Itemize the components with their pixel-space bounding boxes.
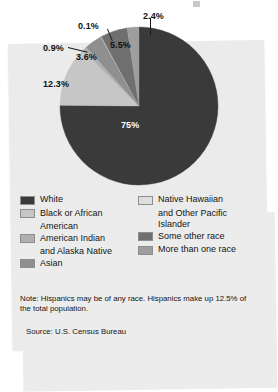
legend-swatch-icon: [138, 232, 153, 241]
slice-label-black: 12.3%: [43, 79, 69, 89]
scan-artifact: [193, 1, 200, 7]
legend-label-continued: and Alaska Native: [20, 246, 140, 258]
legend-swatch-icon: [20, 234, 35, 243]
legend-label-continued: and Other Pacific: [138, 208, 258, 220]
legend-item-left-1[interactable]: Black or African: [20, 208, 140, 220]
legend-item-right-0[interactable]: Native Hawaiian: [138, 194, 258, 206]
legend-swatch-icon: [20, 259, 35, 268]
legend-item-left-0[interactable]: White: [20, 194, 140, 206]
legend-label: Asian: [40, 258, 63, 270]
legend-swatch-icon: [20, 209, 35, 218]
slice-label-white: 75%: [121, 120, 139, 130]
legend-label: Black or African: [40, 208, 103, 220]
slice-label-some-other-race: 5.5%: [110, 40, 131, 50]
chart-source: Source: U.S. Census Bureau: [26, 327, 246, 337]
legend-label-continued: American: [20, 221, 140, 233]
legend-item-left-3[interactable]: Asian: [20, 258, 140, 270]
legend-item-right-1[interactable]: Some other race: [138, 231, 258, 243]
legend-column-right: Native Hawaiianand Other PacificIslander…: [138, 194, 258, 258]
legend-label: Some other race: [158, 231, 225, 243]
slice-label-asian: 3.6%: [76, 52, 97, 62]
legend-swatch-icon: [138, 246, 153, 255]
chart-note: Note: Hispanics may be of any race. Hisp…: [20, 294, 250, 314]
slice-label-native-hawaiian: 0.1%: [78, 21, 99, 31]
legend-swatch-icon: [138, 196, 153, 205]
legend-label: American Indian: [40, 233, 105, 245]
legend-item-left-2[interactable]: American Indian: [20, 233, 140, 245]
legend-column-left: WhiteBlack or AfricanAmericanAmerican In…: [20, 194, 140, 271]
legend-label-continued: Islander: [138, 219, 258, 231]
legend-label: Native Hawaiian: [158, 194, 223, 206]
legend-item-right-2[interactable]: More than one race: [138, 244, 258, 256]
legend-label: White: [40, 194, 63, 206]
slice-label-more-than-one: 2.4%: [143, 11, 164, 21]
legend-label: More than one race: [158, 244, 236, 256]
legend-swatch-icon: [20, 196, 35, 205]
slice-label-american-indian: 0.9%: [43, 43, 64, 53]
